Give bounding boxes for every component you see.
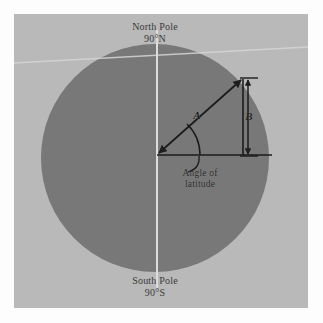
north-pole-name: North Pole [132, 21, 178, 32]
north-pole-label: North Pole 90°N [95, 21, 215, 45]
figure-root: North Pole 90°N South Pole 90°S Angle of… [0, 0, 323, 323]
south-pole-name: South Pole [132, 275, 178, 286]
south-pole-label: South Pole 90°S [95, 275, 215, 299]
earth-disc [41, 44, 269, 272]
south-pole-value: 90°S [145, 287, 165, 298]
angle-label-line2: latitude [185, 179, 215, 189]
angle-of-latitude-label: Angle of latitude [145, 168, 255, 190]
angle-label-line1: Angle of [182, 168, 217, 178]
segment-a-label: A [190, 109, 204, 122]
north-pole-value: 90°N [144, 33, 166, 44]
segment-b-label: B [242, 110, 256, 123]
